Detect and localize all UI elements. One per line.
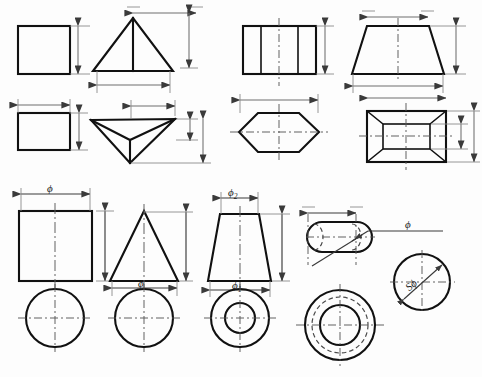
figure-sphere-view: Sϕ <box>390 250 455 314</box>
figure-square-prism-top-view <box>18 99 88 150</box>
figure-cylinder-top-view <box>18 284 92 352</box>
label-phi-slot: ϕ <box>405 218 411 230</box>
label-phi-cone: ϕ <box>138 277 144 289</box>
drawing-sheet: ϕ ϕ ϕ2 ϕ1 <box>0 0 482 377</box>
label-phi-cylinder: ϕ <box>47 182 53 194</box>
figure-hexagonal-prism-front-view <box>243 18 334 86</box>
figure-hexagonal-prism-top-view <box>230 94 328 161</box>
figure-cone-front-view: ϕ <box>110 204 193 296</box>
figure-pyramid-front-view <box>93 7 203 93</box>
figure-square-prism-front-view <box>18 26 90 74</box>
figure-cone-top-view <box>108 284 181 352</box>
figure-cylinder-front-view: ϕ <box>19 182 114 290</box>
figure-truncated-pyramid-front-view <box>352 11 466 93</box>
figure-truncated-pyramid-top-view <box>359 98 480 170</box>
figure-truncated-cone-top-view <box>204 284 277 352</box>
figure-slot-capsule-top-view <box>296 284 385 366</box>
label-s-phi-sphere: Sϕ <box>403 277 420 294</box>
figure-truncated-cone-front-view: ϕ2 ϕ1 <box>208 186 290 297</box>
technical-drawing-canvas: ϕ ϕ ϕ2 ϕ1 <box>0 0 482 377</box>
figure-pyramid-top-view <box>91 100 211 163</box>
